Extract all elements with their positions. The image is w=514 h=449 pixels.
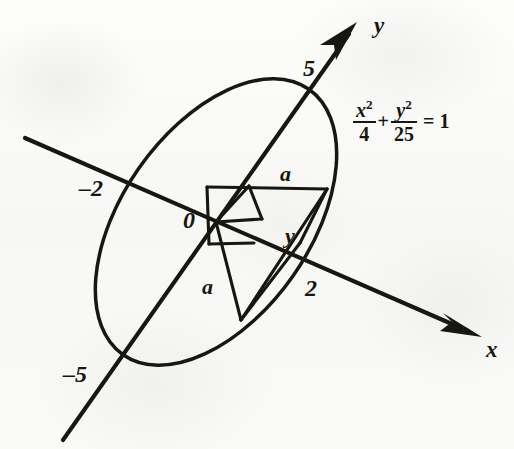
- tick-label-minus-2: –2: [79, 176, 103, 200]
- tick-label-5: 5: [303, 56, 315, 80]
- segment-label-y: y: [285, 225, 295, 247]
- segment-label-a-upper: a: [280, 163, 291, 185]
- equation-term-2-numerator: y2: [393, 98, 414, 120]
- equation-term-2-denominator: 25: [391, 124, 417, 144]
- x-axis-label: x: [486, 338, 498, 361]
- equation-term-2-exponent: 2: [405, 97, 412, 112]
- equation-equals-sign: =: [423, 110, 434, 133]
- tick-label-origin: 0: [183, 208, 195, 232]
- y-axis-arrowhead: [320, 22, 357, 60]
- segment-label-a-lower: a: [202, 276, 213, 298]
- x-axis-arrowhead: [440, 313, 482, 337]
- equation-term-1: x2 4: [353, 98, 376, 144]
- ellipse-equation: x2 4 + y2 25 = 1: [352, 98, 449, 144]
- tick-label-minus-5: –5: [63, 362, 87, 386]
- equation-term-1-numerator: x2: [353, 98, 376, 120]
- ellipse-figure: y x 5 –2 0 2 –5 a a y x2 4 + y2 25 = 1: [0, 0, 514, 449]
- equation-term-1-denominator: 4: [356, 124, 372, 144]
- equation-right-hand-side: 1: [439, 110, 449, 133]
- equation-term-1-exponent: 2: [366, 97, 373, 112]
- equation-plus-operator: +: [378, 110, 389, 133]
- y-axis-label: y: [374, 14, 384, 37]
- equation-term-2: y2 25: [391, 98, 417, 144]
- tick-label-2: 2: [305, 276, 317, 300]
